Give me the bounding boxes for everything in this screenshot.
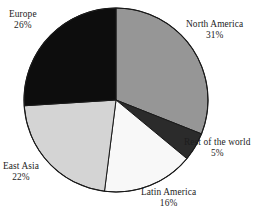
- pie-label-europe-value: 26%: [9, 20, 37, 31]
- pie-label-north-america: North America 31%: [186, 19, 243, 40]
- pie-label-latin-america: Latin America 16%: [141, 187, 196, 208]
- pie-label-rest-of-the-world-value: 5%: [184, 148, 251, 159]
- pie-label-east-asia: East Asia 22%: [3, 161, 39, 182]
- pie-label-east-asia-name: East Asia: [3, 161, 39, 172]
- pie-label-latin-america-value: 16%: [141, 198, 196, 209]
- pie-label-latin-america-name: Latin America: [141, 187, 196, 198]
- pie-label-europe: Europe 26%: [9, 9, 37, 30]
- pie-slice-europe: [24, 8, 116, 106]
- pie-label-rest-of-the-world-name: Rest of the world: [184, 137, 251, 148]
- pie-chart-screenshot: North America 31% Rest of the world 5% L…: [0, 0, 276, 218]
- pie-label-east-asia-value: 22%: [3, 172, 39, 183]
- pie-label-europe-name: Europe: [9, 9, 37, 20]
- pie-label-north-america-name: North America: [186, 19, 243, 30]
- pie-label-north-america-value: 31%: [186, 30, 243, 41]
- pie-slice-group: [24, 8, 208, 192]
- pie-label-rest-of-the-world: Rest of the world 5%: [184, 137, 251, 158]
